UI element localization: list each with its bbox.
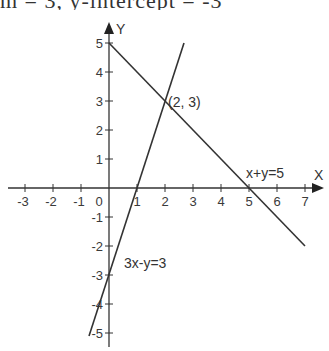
x-tick-label: 7: [301, 194, 308, 209]
x-tick-label: 6: [273, 194, 280, 209]
y-tick-label: -1: [91, 210, 103, 225]
x-tick-label: 3: [189, 194, 196, 209]
x-tick-labels: -3 -2 -1 1 2 3 4 5 6 7: [17, 194, 308, 209]
origin-label: 0: [95, 194, 102, 209]
y-axis-arrow-icon: [104, 22, 114, 34]
line-3x-minus-y-eq-3: [89, 43, 184, 336]
y-tick-label: 4: [96, 65, 103, 80]
x-tick-label: 5: [245, 194, 252, 209]
y-tick-label: 1: [96, 152, 103, 167]
y-tick-label: -2: [91, 239, 103, 254]
x-axis-arrow-icon: [312, 183, 324, 193]
x-tick-label: -1: [73, 194, 85, 209]
coordinate-plane: -3 -2 -1 1 2 3 4 5 6 7 0 5 4 3 2 1 -1 -2…: [0, 0, 329, 351]
y-tick-label: 2: [96, 123, 103, 138]
y-tick-label: 3: [96, 94, 103, 109]
x-tick-label: 4: [217, 194, 224, 209]
line1-label: x+y=5: [246, 165, 284, 181]
x-tick-label: 2: [161, 194, 168, 209]
x-axis-label: X: [314, 167, 324, 183]
x-tick-label: -2: [45, 194, 57, 209]
line2-label: 3x-y=3: [124, 255, 167, 271]
line-x-plus-y-eq-5: [109, 43, 305, 246]
y-tick-label: -5: [91, 326, 103, 341]
y-tick-label: -3: [91, 268, 103, 283]
y-tick-label: 5: [96, 36, 103, 51]
y-axis-label: Y: [116, 21, 126, 37]
x-tick-label: -3: [17, 194, 29, 209]
intersection-label: (2, 3): [168, 94, 201, 110]
